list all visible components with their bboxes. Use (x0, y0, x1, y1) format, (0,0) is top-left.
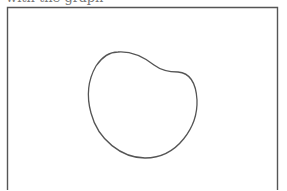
closed-curve-shape (88, 52, 197, 158)
figure-frame (8, 8, 278, 191)
figure-canvas (0, 0, 287, 190)
